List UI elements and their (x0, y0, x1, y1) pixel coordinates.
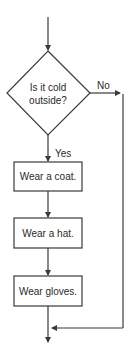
yes-label: Yes (55, 148, 71, 159)
step-label-hat: Wear a hat. (22, 228, 74, 239)
flowchart: Is it cold outside? No Yes Wear a coat. … (0, 0, 129, 354)
decision-label-line2: outside? (29, 95, 67, 106)
step-label-gloves: Wear gloves. (19, 286, 77, 297)
step-label-coat: Wear a coat. (20, 171, 77, 182)
decision-diamond (7, 51, 90, 135)
decision-label-line1: Is it cold (30, 82, 67, 93)
no-label: No (97, 80, 110, 91)
